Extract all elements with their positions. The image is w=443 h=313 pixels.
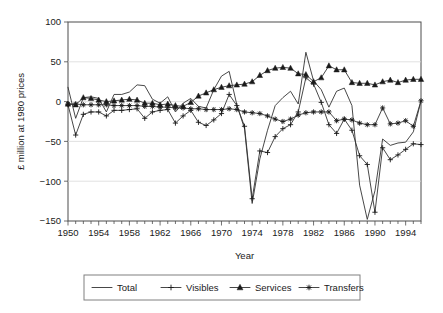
x-tick-label: 1986 — [334, 227, 355, 238]
y-tick-label: 50 — [50, 56, 61, 67]
x-tick-label: 1974 — [242, 227, 263, 238]
chart-legend: TotalVisiblesServicesTransfers — [84, 275, 364, 300]
plot-area-frame — [68, 22, 421, 221]
x-tick-label: 1958 — [119, 227, 140, 238]
chart-figure: 100500−50−100−150 1950195419581962196619… — [0, 0, 443, 313]
y-tick-label: −50 — [45, 136, 61, 147]
x-axis-ticks — [68, 221, 421, 226]
plot-background — [68, 22, 421, 221]
y-tick-label: −150 — [40, 215, 61, 226]
y-axis-title: £ million at 1980 prices — [15, 73, 26, 170]
x-tick-label: 1954 — [88, 227, 109, 238]
x-tick-label: 1962 — [150, 227, 171, 238]
legend-label: Services — [255, 282, 292, 293]
x-tick-label: 1982 — [303, 227, 324, 238]
y-axis-ticks — [64, 22, 68, 221]
x-axis-title: Year — [235, 250, 254, 261]
chart-canvas: 100500−50−100−150 1950195419581962196619… — [0, 0, 443, 313]
x-tick-label: 1950 — [57, 227, 78, 238]
y-tick-label: 0 — [56, 96, 61, 107]
y-tick-label: −100 — [40, 176, 61, 187]
x-tick-label: 1994 — [395, 227, 416, 238]
legend-label: Total — [117, 282, 137, 293]
y-axis-tick-labels: 100500−50−100−150 — [40, 16, 61, 226]
x-tick-label: 1990 — [364, 227, 385, 238]
legend-label: Visibles — [186, 282, 219, 293]
y-tick-label: 100 — [45, 16, 61, 27]
x-axis-tick-labels: 1950195419581962196619701974197819821986… — [57, 227, 416, 238]
x-tick-label: 1966 — [180, 227, 201, 238]
legend-label: Transfers — [324, 282, 364, 293]
x-tick-label: 1970 — [211, 227, 232, 238]
x-tick-label: 1978 — [272, 227, 293, 238]
